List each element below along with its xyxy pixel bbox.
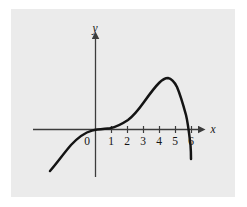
y-axis-label: y	[91, 22, 98, 35]
tick-label-1: 1	[108, 135, 114, 147]
tick-label-3: 3	[140, 135, 146, 147]
x-axis-label: x	[209, 123, 216, 135]
tick-label-0: 0	[84, 135, 90, 147]
function-curve	[50, 78, 191, 171]
tick-label-6: 6	[188, 135, 194, 147]
tick-label-4: 4	[156, 135, 162, 147]
tick-label-5: 5	[172, 135, 178, 147]
figure-root: 0 1 2 3 4 5 6 y x	[0, 0, 247, 207]
graph-canvas: 0 1 2 3 4 5 6 y x	[0, 0, 247, 207]
tick-label-2: 2	[124, 135, 130, 147]
